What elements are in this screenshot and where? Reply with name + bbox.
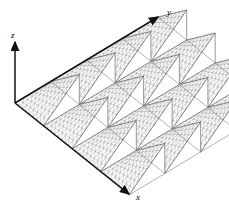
figure-container: x y z <box>0 0 229 213</box>
x-axis-label: x <box>135 192 140 202</box>
z-axis-label: z <box>10 30 15 40</box>
surface-plot-svg: x y z <box>0 0 229 213</box>
y-axis-label: y <box>166 7 171 17</box>
sawtooth-surface-mesh <box>15 10 229 195</box>
